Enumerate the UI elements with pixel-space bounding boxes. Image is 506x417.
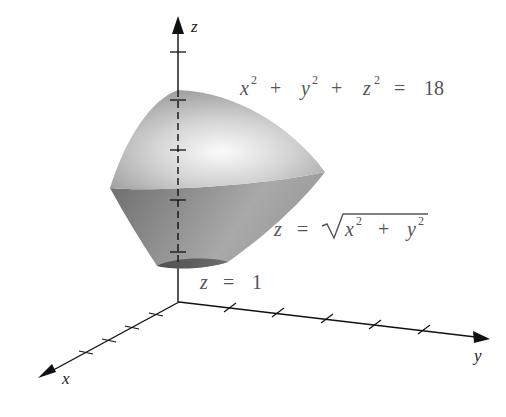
y-axis — [179, 302, 490, 343]
svg-text:1: 1 — [252, 271, 262, 293]
solid-region — [110, 90, 325, 269]
z-axis-arrow-icon — [172, 16, 184, 34]
svg-text:+: + — [378, 218, 389, 240]
svg-text:z: z — [273, 218, 282, 240]
x-axis-label: x — [61, 369, 70, 388]
svg-text:=: = — [223, 271, 234, 293]
svg-text:x: x — [344, 218, 354, 240]
svg-text:y: y — [299, 77, 310, 100]
svg-text:2: 2 — [418, 214, 424, 228]
svg-text:2: 2 — [356, 214, 362, 228]
cone-equation-label: z = x 2 + y 2 — [273, 214, 428, 241]
svg-text:=: = — [297, 218, 308, 240]
y-axis-arrow-icon — [473, 331, 490, 343]
sphere-cap-surface — [110, 90, 325, 189]
svg-text:2: 2 — [374, 73, 380, 87]
svg-text:+: + — [331, 77, 342, 99]
svg-text:=: = — [394, 77, 405, 99]
y-axis-ticks — [224, 303, 430, 334]
plane-equation-label: z = 1 — [199, 271, 262, 293]
svg-text:18: 18 — [424, 77, 444, 99]
svg-text:z: z — [362, 77, 371, 99]
z-axis-label: z — [190, 17, 198, 36]
solid-region-diagram: z x y x 2 + y 2 + z 2 = 18 z = x 2 + y 2… — [0, 0, 506, 417]
svg-text:x: x — [239, 77, 249, 99]
x-axis-arrow-icon — [38, 364, 56, 378]
sphere-equation-label: x 2 + y 2 + z 2 = 18 — [239, 73, 444, 100]
svg-text:z: z — [199, 271, 208, 293]
svg-text:2: 2 — [251, 73, 257, 87]
y-axis-label: y — [472, 346, 482, 365]
svg-text:+: + — [270, 77, 281, 99]
svg-text:2: 2 — [312, 73, 318, 87]
svg-text:y: y — [405, 218, 416, 241]
x-axis — [38, 302, 179, 378]
